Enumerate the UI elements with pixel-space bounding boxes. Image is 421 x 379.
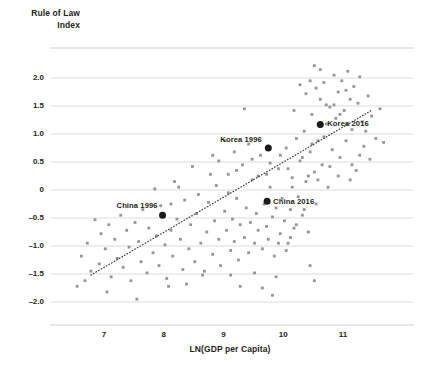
data-point — [379, 107, 382, 110]
data-point — [352, 85, 355, 88]
data-point — [269, 186, 272, 189]
data-point — [201, 274, 204, 277]
data-point — [265, 173, 268, 176]
data-point — [245, 207, 248, 210]
data-point — [76, 285, 79, 288]
data-point — [285, 249, 288, 252]
data-point — [233, 151, 236, 154]
data-point — [217, 238, 220, 241]
data-point — [170, 203, 173, 206]
data-point — [331, 148, 334, 151]
data-point — [340, 79, 343, 82]
data-point — [307, 231, 310, 234]
data-point — [319, 98, 322, 101]
data-point — [313, 64, 316, 67]
data-point — [287, 167, 290, 170]
data-point — [122, 266, 125, 269]
data-point — [295, 223, 298, 226]
data-point — [345, 89, 348, 92]
data-point — [249, 221, 252, 224]
data-point — [275, 275, 278, 278]
data-point — [303, 208, 306, 211]
data-point — [153, 187, 156, 190]
highlight-point — [159, 212, 166, 219]
data-point — [181, 268, 184, 271]
data-point — [158, 264, 161, 267]
data-point — [104, 247, 107, 250]
data-point — [239, 223, 242, 226]
data-point — [100, 232, 103, 235]
data-point — [147, 227, 150, 230]
data-point — [322, 81, 325, 84]
highlight-point — [265, 145, 272, 152]
callout-label: China 1996 — [117, 201, 158, 210]
data-point — [349, 98, 352, 101]
data-point — [301, 156, 304, 159]
callout-label: China 2016 — [273, 197, 314, 206]
data-point — [134, 221, 137, 224]
data-point — [98, 263, 101, 266]
data-point — [215, 184, 218, 187]
data-point — [253, 271, 256, 274]
data-point — [261, 247, 264, 250]
data-point — [193, 260, 196, 263]
data-point — [271, 215, 274, 218]
data-point — [279, 232, 282, 235]
data-point — [110, 275, 113, 278]
data-point — [247, 251, 250, 254]
data-point — [301, 214, 304, 217]
data-point — [313, 279, 316, 282]
data-point — [241, 163, 244, 166]
data-point — [351, 163, 354, 166]
data-point — [177, 186, 180, 189]
data-point — [307, 175, 310, 178]
data-point — [183, 199, 186, 202]
data-point — [207, 201, 210, 204]
data-point — [125, 229, 128, 232]
data-point — [299, 159, 302, 162]
data-point — [309, 151, 312, 154]
data-point — [229, 249, 232, 252]
data-point — [358, 154, 361, 157]
data-point — [317, 179, 320, 182]
data-point — [251, 158, 254, 161]
data-point — [159, 204, 162, 207]
data-point — [176, 218, 179, 221]
data-point — [374, 137, 377, 140]
data-point — [339, 156, 342, 159]
data-point — [363, 145, 366, 148]
data-point — [189, 223, 192, 226]
data-point — [355, 169, 358, 172]
data-point — [167, 285, 170, 288]
data-point — [333, 103, 336, 106]
data-point — [267, 238, 270, 241]
data-point — [273, 255, 276, 258]
data-point — [337, 91, 340, 94]
data-point — [346, 70, 349, 73]
data-point — [345, 139, 348, 142]
data-point — [107, 223, 110, 226]
data-point — [237, 259, 240, 262]
data-point — [305, 92, 308, 95]
data-point — [303, 130, 306, 133]
scatter-plot-canvas — [0, 0, 421, 379]
data-point — [113, 238, 116, 241]
data-point — [357, 102, 360, 105]
data-point — [295, 137, 298, 140]
data-point — [106, 291, 109, 294]
callout-label: Korea 2016 — [327, 119, 369, 128]
data-point — [211, 154, 214, 157]
data-point — [209, 173, 212, 176]
data-point — [349, 179, 352, 182]
data-point — [315, 203, 318, 206]
data-point — [253, 242, 256, 245]
data-point — [299, 83, 302, 86]
data-point — [187, 247, 190, 250]
data-point — [243, 236, 246, 239]
data-point — [140, 260, 143, 263]
data-point — [367, 95, 370, 98]
data-point — [368, 158, 371, 161]
data-point — [231, 218, 234, 221]
data-point — [370, 115, 373, 118]
data-point — [94, 218, 97, 221]
